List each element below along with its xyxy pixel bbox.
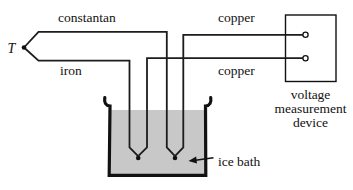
diagram-svg: T constantan copper iron copper voltage …: [0, 0, 353, 190]
label-copper-bottom: copper: [218, 63, 255, 78]
reference-junction-dot-right: [173, 156, 178, 161]
measuring-junction-dot: [22, 45, 27, 50]
voltage-device-box: [286, 15, 337, 82]
device-terminal-top: [303, 32, 308, 37]
label-iron: iron: [60, 63, 82, 78]
label-constantan: constantan: [58, 10, 116, 25]
reference-junction-dot-left: [136, 156, 141, 161]
label-ice-bath: ice bath: [218, 154, 261, 169]
label-copper-top: copper: [218, 10, 255, 25]
label-junction-t: T: [8, 41, 17, 56]
thermocouple-ice-bath-diagram: T constantan copper iron copper voltage …: [0, 0, 353, 190]
label-device-line1: voltage: [291, 87, 331, 102]
device-terminal-bottom: [303, 56, 308, 61]
label-device-line2: measurement: [275, 101, 347, 116]
label-device-line3: device: [293, 115, 328, 130]
ice-bath-water: [111, 110, 206, 175]
